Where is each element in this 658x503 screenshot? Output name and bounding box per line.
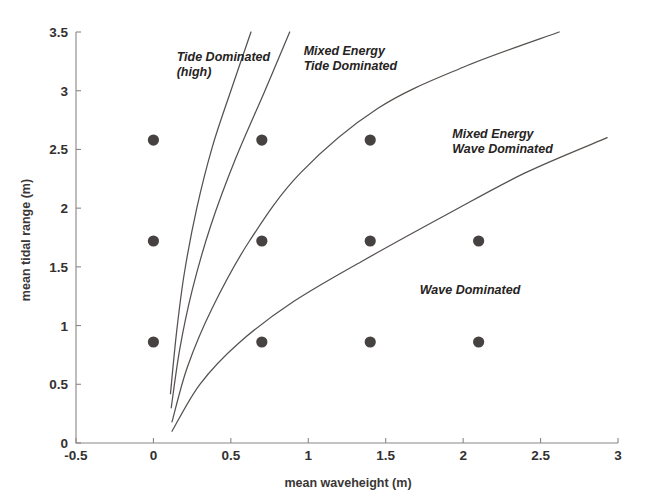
wave-dominated-boundary xyxy=(172,138,607,432)
data-point-marker xyxy=(256,235,267,246)
region-label-mixed-energy-wave-dominated: Mixed EnergyWave Dominated xyxy=(452,127,553,156)
x-tick-label: 1.5 xyxy=(376,448,395,463)
x-tick-label: 1 xyxy=(305,448,313,463)
data-point-marker xyxy=(148,134,159,145)
region-label-line: (high) xyxy=(177,65,212,79)
data-points xyxy=(148,134,484,347)
region-label-line: Wave Dominated xyxy=(452,142,553,156)
tide-dominated-boundary xyxy=(170,32,251,394)
data-point-marker xyxy=(473,235,484,246)
chart-container: -0.500.511.522.53 00.511.522.533.5 Tide … xyxy=(0,0,658,503)
y-tick-label: 0.5 xyxy=(49,377,68,392)
y-tick-label: 3 xyxy=(60,84,68,99)
data-point-marker xyxy=(148,336,159,347)
data-point-marker xyxy=(256,336,267,347)
data-point-marker xyxy=(365,235,376,246)
region-label-tide-dominated: Tide Dominated(high) xyxy=(177,50,271,79)
y-axis-tick-labels: 00.511.522.533.5 xyxy=(49,25,68,451)
region-label-line: Wave Dominated xyxy=(420,283,521,297)
y-tick-label: 2.5 xyxy=(49,142,68,157)
data-point-marker xyxy=(365,134,376,145)
x-axis-title: mean waveheight (m) xyxy=(284,476,411,490)
region-label-wave-dominated: Wave Dominated xyxy=(420,283,521,297)
x-tick-label: 0.5 xyxy=(221,448,240,463)
y-tick-label: 0 xyxy=(60,436,68,451)
y-tick-label: 1 xyxy=(60,319,68,334)
region-label-line: Tide Dominated xyxy=(304,59,398,73)
boundary-curves xyxy=(170,32,607,431)
region-label-line: Mixed Energy xyxy=(452,127,534,141)
y-axis-title: mean tidal range (m) xyxy=(19,179,33,301)
x-tick-label: 0 xyxy=(150,448,158,463)
y-tick-label: 3.5 xyxy=(49,25,68,40)
x-tick-label: 2.5 xyxy=(531,448,550,463)
region-label-line: Tide Dominated xyxy=(177,50,271,64)
x-tick-label: 3 xyxy=(614,448,622,463)
scatter-plot-svg: -0.500.511.522.53 00.511.522.533.5 Tide … xyxy=(0,0,658,503)
x-axis-tick-labels: -0.500.511.522.53 xyxy=(64,448,622,463)
data-point-marker xyxy=(365,336,376,347)
data-point-marker xyxy=(148,235,159,246)
data-point-marker xyxy=(256,134,267,145)
y-tick-label: 1.5 xyxy=(49,260,68,275)
region-label-mixed-energy-tide-dominated: Mixed EnergyTide Dominated xyxy=(304,44,398,73)
mixed-energy-tide-outer-boundary xyxy=(172,32,559,422)
y-tick-label: 2 xyxy=(60,201,68,216)
region-label-line: Mixed Energy xyxy=(304,44,386,58)
x-tick-label: 2 xyxy=(459,448,467,463)
data-point-marker xyxy=(473,336,484,347)
